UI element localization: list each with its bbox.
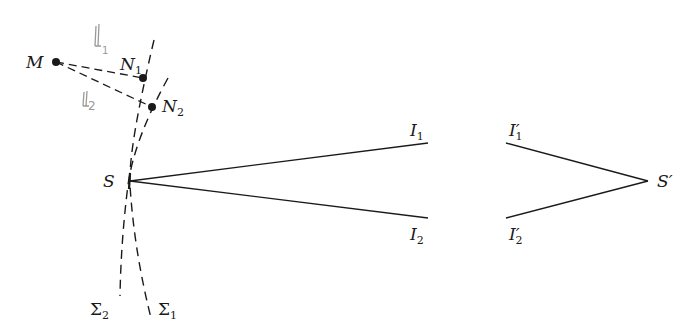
source-s-marker (129, 173, 130, 189)
label-n1: N1 (119, 54, 142, 77)
point-m (52, 58, 60, 66)
label-s: S (103, 171, 115, 191)
ray-i1p-sp (506, 143, 648, 181)
label-s-prime: S′ (657, 171, 673, 191)
label-sigma-2: Σ2 (90, 299, 109, 322)
svg-text:1: 1 (102, 45, 108, 56)
optics-diagram: M N1 N2 S S′ I1 I2 I′1 I′2 Σ2 Σ1 1 2 (0, 0, 698, 333)
wavefront-sigma-2 (120, 78, 168, 296)
label-m: M (25, 52, 44, 72)
handwritten-l2: 2 (83, 91, 96, 113)
ray-s-i2 (130, 181, 428, 218)
label-i2: I2 (409, 224, 424, 247)
label-i2-prime: I′2 (508, 224, 523, 247)
ray-s-i1 (130, 143, 428, 181)
svg-text:2: 2 (88, 99, 96, 113)
handwritten-l1: 1 (95, 24, 108, 56)
label-i1: I1 (409, 120, 424, 143)
label-sigma-1: Σ1 (158, 299, 177, 322)
label-n2: N2 (161, 96, 184, 119)
ray-i2p-sp (506, 181, 648, 218)
label-i1-prime: I′1 (508, 120, 523, 143)
point-n2 (148, 103, 156, 111)
